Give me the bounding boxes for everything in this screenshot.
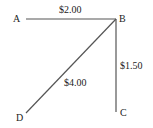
network-diagram: A B C D $2.00 $1.50 $4.00 (0, 0, 153, 128)
node-a-label: A (13, 14, 20, 24)
node-b-label: B (119, 14, 126, 24)
node-c-label: C (120, 108, 127, 118)
edge-b-c-cost: $1.50 (120, 61, 143, 71)
edge-b-d (26, 19, 116, 113)
node-d-label: D (16, 113, 23, 123)
edge-a-b-cost: $2.00 (59, 5, 82, 15)
edge-b-d-cost: $4.00 (64, 78, 87, 88)
